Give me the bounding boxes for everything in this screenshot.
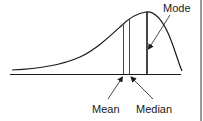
median-arrow xyxy=(131,77,153,99)
distribution-curve xyxy=(12,12,182,71)
median-label: Median xyxy=(136,103,172,115)
distribution-diagram: Mode Mean Median xyxy=(0,0,203,121)
mode-arrow xyxy=(149,15,171,49)
mode-label: Mode xyxy=(163,2,191,14)
frame-border xyxy=(200,0,202,121)
mean-label: Mean xyxy=(92,103,120,115)
diagram-canvas: Mode Mean Median xyxy=(0,0,203,121)
mean-arrow xyxy=(108,77,123,99)
